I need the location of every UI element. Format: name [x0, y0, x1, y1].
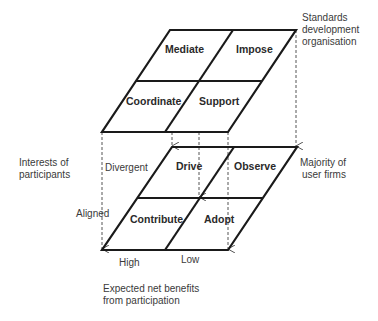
x-axis-title-line1: Expected net benefits [103, 283, 199, 295]
cell-drive: Drive [176, 160, 202, 172]
x-axis-high: High [119, 257, 140, 269]
cell-contribute: Contribute [130, 213, 183, 225]
label-user-firms-line2: user firms [300, 169, 346, 181]
cell-impose: Impose [236, 43, 273, 55]
y-axis-title-line1: Interests of [19, 157, 70, 169]
cell-coordinate: Coordinate [126, 95, 181, 107]
cell-adopt: Adopt [204, 213, 234, 225]
cell-mediate: Mediate [165, 43, 204, 55]
label-sdo-line3: organisation [302, 36, 359, 48]
label-sdo-line2: development [302, 24, 359, 36]
label-user-firms-line1: Majority of [300, 157, 346, 169]
y-axis-divergent: Divergent [105, 162, 148, 174]
y-axis-title-line2: participants [19, 169, 70, 181]
cell-support: Support [199, 95, 239, 107]
y-axis-aligned: Aligned [76, 208, 109, 220]
label-user-firms: Majority of user firms [300, 157, 346, 181]
y-axis-title: Interests of participants [19, 157, 70, 181]
x-axis-title: Expected net benefits from participation [103, 283, 199, 307]
cell-observe: Observe [234, 160, 276, 172]
x-axis-title-line2: from participation [103, 295, 199, 307]
label-sdo-line1: Standards [302, 12, 359, 24]
x-axis-low: Low [181, 254, 199, 266]
label-sdo: Standards development organisation [302, 12, 359, 48]
